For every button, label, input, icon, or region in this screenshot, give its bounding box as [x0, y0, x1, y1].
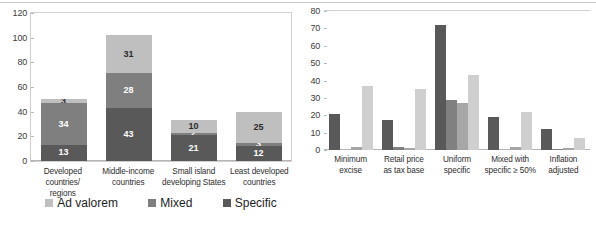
y-axis-tick-label: 40 [17, 107, 31, 117]
bar-segment-specific: 21 [171, 135, 217, 161]
y-axis-tick-label: 20 [17, 131, 31, 141]
legend-item: Specific [223, 196, 277, 210]
y-axis-tick-mark [31, 62, 34, 63]
y-axis-tick-mark [31, 87, 34, 88]
bar-group [324, 11, 377, 150]
bar-segment-ad-valorem: 31 [106, 35, 152, 73]
bar-cluster [430, 11, 483, 150]
stacked-bar: 312843 [106, 35, 152, 161]
x-axis-category-label: Retail priceas tax base [377, 154, 430, 176]
y-axis-tick-label: 0 [22, 156, 31, 166]
x-axis-category-label: Uniformspecific [430, 154, 483, 176]
bar-segment-mixed: 28 [106, 73, 152, 108]
legend-item: Mixed [148, 196, 192, 210]
bar-cluster [377, 11, 430, 150]
bar-group [377, 11, 430, 150]
bar-group: 312843 [96, 13, 161, 161]
right-bar-groups [324, 11, 590, 150]
bar-least-developed-countries [552, 149, 563, 150]
left-bar-groups: 334133128431022125312 [31, 13, 291, 161]
bar-developed-regions [362, 86, 373, 150]
x-axis-category-label: Minimumexcise [324, 154, 377, 176]
y-axis-tick-label: 10 [310, 128, 324, 138]
bar-group: 10221 [161, 13, 226, 161]
y-axis-tick-mark [324, 63, 327, 64]
bar-group: 33413 [31, 13, 96, 161]
legend-swatch [223, 199, 231, 207]
bar-cluster [324, 11, 377, 150]
y-axis-tick-label: 50 [310, 58, 324, 68]
bar-small-island-developing-states [404, 148, 415, 150]
bar-group [430, 11, 483, 150]
bar-segment-mixed: 34 [41, 103, 87, 145]
y-axis-tick-mark [324, 98, 327, 99]
x-axis-category-label: Mixed withspecific ≥ 50% [484, 154, 537, 176]
legend-label: Specific [235, 196, 277, 210]
bar-segment-specific: 43 [106, 108, 152, 161]
figure-page: 334133128431022125312 120100806040200 De… [0, 0, 596, 236]
bar-developed-regions [468, 75, 479, 150]
x-axis-category-label: Inflationadjusted [537, 154, 590, 176]
legend-label: Mixed [160, 196, 192, 210]
legend-label: Ad valorem [57, 196, 118, 210]
left-legend: Ad valoremMixedSpecific [30, 196, 292, 210]
y-axis-tick-mark [31, 38, 34, 39]
bar-group [484, 11, 537, 150]
y-axis-tick-label: 70 [310, 23, 324, 33]
right-grouped-bar-chart: 80706050403020100 MinimumexciseRetail pr… [300, 0, 596, 236]
bar-group [537, 11, 590, 150]
y-axis-tick-mark [31, 136, 34, 137]
bar-middle-income-countries [435, 25, 446, 150]
left-x-axis-labels: Developed countries/regionsMiddle-income… [30, 166, 292, 199]
bar-small-island-developing-states [351, 147, 362, 150]
bar-cluster [537, 11, 590, 150]
y-axis-tick-label: 80 [310, 6, 324, 16]
y-axis-tick-label: 30 [310, 93, 324, 103]
x-axis-category-label: Small islanddeveloping States [161, 166, 227, 199]
bar-middle-income-countries [382, 120, 393, 150]
bar-least-developed-countries [446, 100, 457, 150]
bar-least-developed-countries [393, 147, 404, 150]
y-axis-tick-mark [324, 81, 327, 82]
y-axis-tick-mark [324, 28, 327, 29]
y-axis-tick-mark [31, 13, 34, 14]
bar-cluster [484, 11, 537, 150]
bar-segment-ad-valorem: 10 [171, 120, 217, 132]
bar-developed-regions [521, 112, 532, 150]
y-axis-tick-label: 60 [17, 82, 31, 92]
right-x-axis-labels: MinimumexciseRetail priceas tax baseUnif… [324, 154, 590, 176]
left-stacked-bar-chart: 334133128431022125312 120100806040200 De… [4, 0, 296, 236]
y-axis-tick-label: 80 [17, 57, 31, 67]
bar-small-island-developing-states [510, 147, 521, 150]
y-axis-tick-label: 40 [310, 76, 324, 86]
x-axis-category-label: Developed countries/regions [30, 166, 96, 199]
y-axis-tick-label: 100 [13, 33, 31, 43]
y-axis-tick-label: 0 [315, 145, 324, 155]
y-axis-tick-label: 20 [310, 110, 324, 120]
bar-group: 25312 [226, 13, 291, 161]
y-axis-tick-mark [324, 11, 327, 12]
y-axis-tick-mark [324, 133, 327, 134]
y-axis-tick-label: 60 [310, 41, 324, 51]
x-axis-category-label: Middle-incomecountries [96, 166, 162, 199]
bar-segment-specific: 12 [236, 146, 282, 161]
stacked-bar: 10221 [171, 120, 217, 161]
right-plot-area: 80706050403020100 [324, 10, 590, 150]
bar-small-island-developing-states [563, 148, 574, 150]
legend-swatch [45, 199, 53, 207]
bar-segment-specific: 13 [41, 145, 87, 161]
stacked-bar: 25312 [236, 112, 282, 161]
bar-middle-income-countries [329, 114, 340, 150]
y-axis-tick-mark [31, 161, 34, 162]
y-axis-tick-mark [324, 150, 327, 151]
y-axis-tick-mark [31, 112, 34, 113]
bar-developed-regions [415, 89, 426, 150]
bar-segment-ad-valorem: 25 [236, 112, 282, 143]
legend-item: Ad valorem [45, 196, 118, 210]
stacked-bar: 33413 [41, 99, 87, 161]
bar-middle-income-countries [541, 129, 552, 150]
x-axis-category-label: Least developedcountries [227, 166, 293, 199]
bar-small-island-developing-states [457, 103, 468, 150]
y-axis-tick-mark [324, 46, 327, 47]
bar-middle-income-countries [488, 117, 499, 150]
